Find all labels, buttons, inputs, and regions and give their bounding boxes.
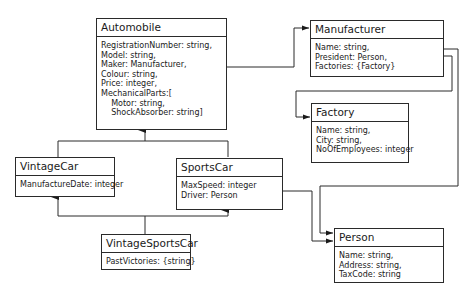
edge-generalization-vintagecar bbox=[58, 197, 145, 234]
class-name: Manufacturer bbox=[311, 21, 443, 39]
class-attributes: ManufactureDate: integer bbox=[16, 176, 114, 193]
class-attributes: MaxSpeed: integer Driver: Person bbox=[177, 177, 282, 203]
class-automobile[interactable]: Automobile RegistrationNumber: string, M… bbox=[96, 18, 227, 130]
class-vintagecar[interactable]: VintageCar ManufactureDate: integer bbox=[15, 157, 115, 197]
edge-generalization-automobile bbox=[58, 130, 228, 157]
class-attributes: Name: string, Address: string, TaxCode: … bbox=[335, 247, 443, 283]
class-name: SportsCar bbox=[177, 159, 282, 177]
class-person[interactable]: Person Name: string, Address: string, Ta… bbox=[334, 228, 444, 283]
class-factory[interactable]: Factory Name: string, City: string, NoOf… bbox=[311, 103, 409, 163]
edge-generalization-sportscar bbox=[145, 210, 228, 216]
class-name: Person bbox=[335, 229, 443, 247]
class-attributes: Name: string, President: Person, Factori… bbox=[311, 39, 443, 75]
class-attributes: Name: string, City: string, NoOfEmployee… bbox=[312, 122, 408, 158]
class-attributes: RegistrationNumber: string, Model: strin… bbox=[97, 37, 226, 121]
class-name: Automobile bbox=[97, 19, 226, 37]
class-vintagesportscar[interactable]: VintageSportsCar PastVictories: {string} bbox=[101, 234, 191, 270]
edge-automobile-manufacturer bbox=[226, 28, 309, 67]
class-name: VintageCar bbox=[16, 158, 114, 176]
class-sportscar[interactable]: SportsCar MaxSpeed: integer Driver: Pers… bbox=[176, 158, 283, 210]
class-name: Factory bbox=[312, 104, 408, 122]
class-attributes: PastVictories: {string} bbox=[102, 253, 190, 270]
class-name: VintageSportsCar bbox=[102, 235, 190, 253]
class-manufacturer[interactable]: Manufacturer Name: string, President: Pe… bbox=[310, 20, 444, 77]
